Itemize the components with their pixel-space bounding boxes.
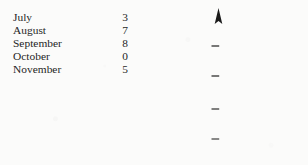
month-label: August [13,24,46,37]
month-label: October [13,50,50,63]
month-label: November [13,63,61,76]
table-row: September 8 [13,37,135,50]
page-canvas: July 3 August 7 September 8 October 0 No… [0,0,308,165]
table-row: August 7 [13,24,135,37]
month-value-table: July 3 August 7 September 8 October 0 No… [13,11,135,76]
table-row: July 3 [13,11,135,24]
month-label: July [13,11,32,24]
month-value: 5 [115,63,135,76]
table-row: November 5 [13,63,135,76]
month-value: 3 [115,11,135,24]
table-row: October 0 [13,50,135,63]
month-value: 8 [115,37,135,50]
month-label: September [13,37,62,50]
month-value: 0 [115,50,135,63]
month-value: 7 [115,24,135,37]
vertical-axis [206,0,234,165]
